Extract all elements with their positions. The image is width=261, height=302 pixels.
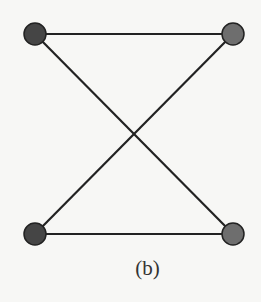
node-bottom-right (222, 223, 244, 245)
figure-caption: (b) (0, 256, 261, 281)
node-bottom-left (24, 223, 46, 245)
caption-text: (b) (135, 256, 160, 280)
edges (35, 34, 233, 234)
node-top-left (24, 23, 46, 45)
node-top-right (222, 23, 244, 45)
